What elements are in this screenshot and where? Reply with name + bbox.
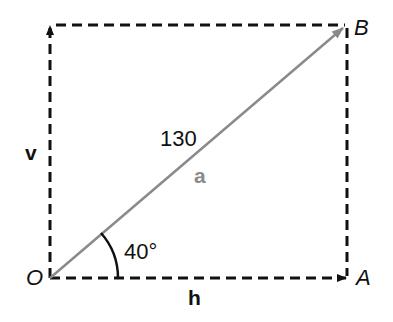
vector-label-v: v bbox=[25, 142, 37, 163]
vector-diagram bbox=[0, 0, 393, 322]
angle-label: 40° bbox=[124, 241, 157, 263]
point-label-o: O bbox=[26, 267, 43, 289]
vector-label-a: a bbox=[194, 165, 206, 186]
vector-label-h: h bbox=[188, 287, 201, 308]
angle-arc bbox=[101, 233, 118, 278]
resultant-vector-a bbox=[50, 28, 343, 278]
point-label-a: A bbox=[356, 267, 371, 289]
point-label-b: B bbox=[354, 17, 369, 39]
magnitude-label: 130 bbox=[160, 128, 197, 150]
